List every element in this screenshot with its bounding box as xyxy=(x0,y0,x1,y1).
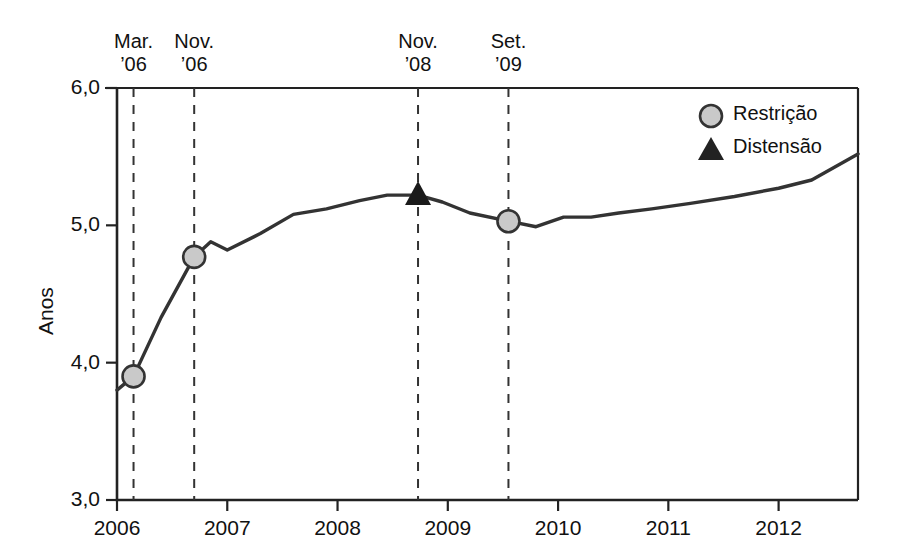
legend-markers-group xyxy=(698,105,724,160)
axes-group xyxy=(105,88,858,511)
event-lines-group xyxy=(134,88,509,500)
data-line-group xyxy=(117,154,858,390)
chart-canvas: Mar. ’06 Nov. ’06 Nov. ’08 Set. ’09 Anos… xyxy=(0,0,903,559)
plot-area xyxy=(0,0,903,559)
data-markers-group xyxy=(123,181,520,387)
